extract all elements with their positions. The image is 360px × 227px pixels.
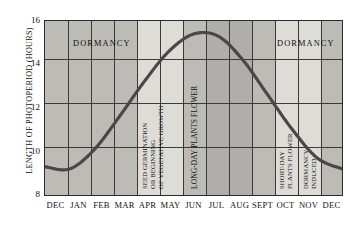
annotation-dormancy-induced-line1: DORMANCY (302, 149, 309, 189)
x-axis-labels: DEC JAN FEB MAR APR MAY JUN JUL AUG SEPT… (44, 200, 343, 218)
y-tick-8: 8 (22, 189, 40, 199)
x-tick-dec2: DEC (315, 200, 348, 210)
photoperiod-chart: LENGTH OF PHOTOPERIOD (HOURS) 16 14 12 1… (0, 0, 360, 227)
y-tick-16: 16 (22, 15, 40, 25)
annotation-seed-germination-line2: OR BEGINNING (149, 140, 156, 189)
y-tick-12: 12 (22, 102, 40, 112)
annotation-dormancy-left: DORMANCY (73, 39, 131, 48)
annotation-short-day-line1: SHORT-DAY (278, 151, 285, 189)
plot-area: DORMANCY DORMANCY SEED GERMINATION OR BE… (44, 20, 343, 196)
annotation-long-day-flower: LONG-DAY PLANTS FLOWER (191, 86, 198, 189)
annotation-seed-germination-line1: SEED GERMINATION (141, 123, 148, 189)
annotation-dormancy-right: DORMANCY (277, 39, 335, 48)
y-tick-10: 10 (22, 146, 40, 156)
annotation-seed-germination-line3: OF VEGETATIVE GROWTH (157, 105, 164, 189)
annotation-short-day-line2: PLANTS FLOWER (286, 133, 293, 189)
y-tick-14: 14 (22, 58, 40, 68)
y-axis-ticks: 16 14 12 10 8 (16, 0, 40, 227)
annotation-dormancy-induced-line2: INDUCED (310, 158, 317, 189)
